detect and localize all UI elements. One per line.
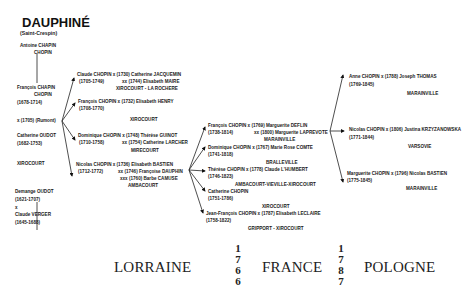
- person-dates: (1771-1844): [349, 136, 374, 141]
- person-dates: (1712-1772): [78, 170, 103, 175]
- year-1787: 1 7 8 7: [336, 243, 346, 287]
- remarriage-info: xx (1744) Elisabeth MAIRE: [122, 80, 179, 85]
- place-name: BRALLEVILLE: [266, 161, 298, 166]
- person-entry: Thérèse CHOPIN x (1778) Claude L'HUMBERT: [208, 168, 308, 173]
- place-name: XIROCOURT - LA ROCHERE: [116, 87, 178, 92]
- person-dates: (1738-1814): [208, 131, 233, 136]
- person-dates: (1682-1753): [17, 142, 42, 147]
- person-dates: (1746-1823): [208, 175, 233, 180]
- place-name: VARSOVIE: [408, 145, 431, 150]
- remarriage-info: xx (1800) Marguerite LAPREVOTE: [254, 131, 328, 136]
- person-entry: Dominique CHOPIN x (1767) Marie Rose COM…: [208, 146, 313, 151]
- person-dates: (1775-1845): [347, 179, 372, 184]
- person-dates: (1758-1822): [206, 219, 231, 224]
- place-name: MIRECOURT: [131, 149, 159, 154]
- region-france: FRANCE: [262, 259, 322, 276]
- person-entry: François CHOPIN x (1732) Elisabeth HENRY: [78, 100, 174, 105]
- spouse-name: Claude VERGER: [15, 213, 51, 218]
- person-dates: (1621-1707): [15, 198, 40, 203]
- third-marriage-info: xxx (1760) Barbe CAMUSE: [120, 177, 178, 182]
- person-dates: (1710-1758): [79, 141, 104, 146]
- remarriage-info: xx (1746) Françoise DAUPHIN: [118, 170, 183, 175]
- person-dates: (1741-1818): [208, 153, 233, 158]
- person-dates: (1769-1845): [349, 83, 374, 88]
- person-name: Demange OUDOT: [15, 190, 54, 195]
- place-name: XIROCOURT: [130, 118, 158, 123]
- person-entry: Dominique CHOPIN x (1748) Thérèse GUINOT: [78, 134, 177, 139]
- region-pologne: POLOGNE: [364, 259, 435, 276]
- person-entry: Anne CHOPIN x (1788) Joseph THOMAS: [349, 75, 437, 80]
- person-entry: Claude CHOPIN x (1730) Catherine JACQUEM…: [77, 73, 181, 78]
- place-name: GRIPPORT - XIROCOURT: [248, 227, 304, 232]
- person-entry: Nicolas CHOPIN x (1736) Elisabeth BASTIE…: [76, 163, 173, 168]
- place-name: MARAINVILLE: [406, 187, 437, 192]
- place-name: MARAINVILLE: [264, 138, 295, 143]
- person-dates: (1705-1749): [79, 80, 104, 85]
- place-name: XIROCOURT: [262, 205, 290, 210]
- person-entry: Nicolas CHOPIN x (1806) Justina KRZYZANO…: [349, 128, 461, 133]
- person-name: François CHAPIN: [17, 86, 55, 91]
- marriage-symbol: x: [15, 206, 18, 211]
- person-entry: Catherine CHOPIN: [208, 190, 248, 195]
- person-name: Antoine CHAPIN: [20, 44, 56, 49]
- remarriage-info: xx (1754) Catherine LARCHER: [122, 141, 188, 146]
- place-name: MARAINVILLE: [407, 92, 438, 97]
- year-digit: 7: [336, 276, 346, 287]
- place-name: AMBACOURT: [128, 184, 158, 189]
- place-name: XIROCOURT: [17, 162, 45, 167]
- person-dates: (1708-1770): [79, 107, 104, 112]
- person-entry: Marguerite CHOPIN x (1796) Nicolas BASTI…: [347, 172, 447, 177]
- year-1766: 1 7 6 6: [233, 243, 243, 287]
- spouse-dates: (1645-1688): [15, 221, 40, 226]
- person-entry: François CHOPIN x (1769) Marguerite DEFL…: [208, 124, 307, 129]
- person-name-variant: CHOPIN: [34, 93, 52, 98]
- person-name: Catherine OUDOT: [17, 134, 56, 139]
- person-name-variant: CHOPIN: [34, 51, 52, 56]
- region-lorraine: LORRAINE: [114, 259, 191, 276]
- person-dates: (1678-1714): [17, 101, 42, 106]
- place-name: AMBACOURT-VIEVILLE-XIROCOURT: [235, 183, 316, 188]
- marriage-info: x (1705) (Rumont): [17, 119, 56, 124]
- year-digit: 6: [233, 276, 243, 287]
- person-dates: (1751-1786): [208, 197, 233, 202]
- person-entry: Jean-François CHOPIN x (1787) Elisabeth …: [206, 212, 321, 217]
